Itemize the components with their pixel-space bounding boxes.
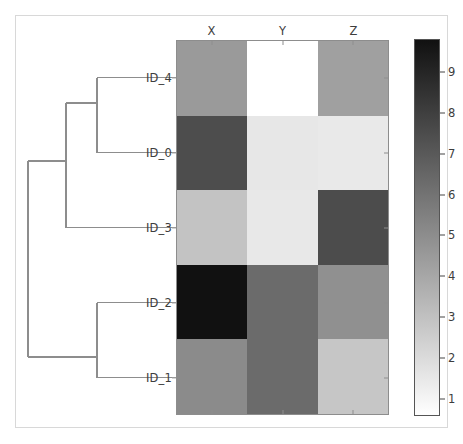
heatmap-cell (318, 41, 388, 116)
row-label-group: ID_4 ID_0 ID_3 ID_2 ID_1 (120, 40, 172, 415)
heatmap-cell (177, 190, 247, 265)
colorbar-label-2: 2 (448, 351, 455, 365)
heatmap-cell (247, 41, 317, 116)
colorbar-label-8: 8 (448, 106, 455, 120)
heatmap-cell (318, 116, 388, 191)
colorbar-tick-7 (440, 153, 445, 154)
colorbar-tick-2 (440, 357, 445, 358)
column-label-group: X Y Z (176, 18, 389, 40)
colorbar-tick-1 (440, 398, 445, 399)
column-label-x: X (207, 24, 215, 38)
clustermap-figure: ID_4 ID_0 ID_3 ID_2 ID_1 X Y Z (0, 0, 463, 444)
colorbar-tick-5 (440, 235, 445, 236)
colorbar-tick-6 (440, 194, 445, 195)
heatmap-cell (177, 41, 247, 116)
heatmap-cell (318, 339, 388, 414)
row-label-id-4: ID_4 (146, 71, 172, 85)
row-label-id-2: ID_2 (146, 296, 172, 310)
colorbar-label-4: 4 (448, 269, 455, 283)
heatmap-cell (247, 116, 317, 191)
column-label-y: Y (279, 24, 286, 38)
row-label-id-0: ID_0 (146, 146, 172, 160)
row-label-id-3: ID_3 (146, 221, 172, 235)
colorbar-label-5: 5 (448, 228, 455, 242)
heatmap-cell (318, 265, 388, 340)
heatmap-cell (177, 265, 247, 340)
heatmap-grid (176, 40, 389, 415)
colorbar-tick-4 (440, 276, 445, 277)
heatmap-cell (247, 190, 317, 265)
colorbar-gradient (414, 39, 440, 416)
colorbar-tick-8 (440, 112, 445, 113)
heatmap-cell (177, 116, 247, 191)
column-label-z: Z (349, 24, 357, 38)
colorbar-label-6: 6 (448, 188, 455, 202)
colorbar-tick-9 (440, 72, 445, 73)
colorbar-tick-3 (440, 317, 445, 318)
heatmap-cell (318, 190, 388, 265)
colorbar-label-3: 3 (448, 310, 455, 324)
heatmap-cell (247, 339, 317, 414)
colorbar: 9 8 7 6 5 4 3 2 1 (414, 39, 440, 416)
colorbar-label-1: 1 (448, 392, 455, 406)
row-label-id-1: ID_1 (146, 371, 172, 385)
heatmap-cell (247, 265, 317, 340)
colorbar-label-9: 9 (448, 65, 455, 79)
colorbar-label-7: 7 (448, 147, 455, 161)
heatmap-cell (177, 339, 247, 414)
